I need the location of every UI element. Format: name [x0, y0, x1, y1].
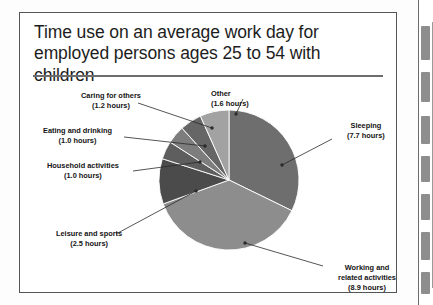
binding-mark: [421, 72, 430, 102]
binding-mark: [421, 116, 430, 144]
label-other-value: (1.6 hours): [211, 99, 249, 109]
label-sleeping: Sleeping (7.7 hours): [347, 121, 385, 141]
binding-mark: [421, 194, 430, 220]
binding-mark: [421, 156, 430, 182]
pie-chart: [20, 13, 396, 292]
label-working-and-related-activities: Working and related activities (8.9 hour…: [338, 263, 396, 292]
label-leisure-name: Leisure and sports: [56, 229, 122, 239]
label-eating-name: Eating and drinking: [43, 126, 112, 136]
label-other: Other (1.6 hours): [211, 89, 249, 109]
label-household-value: (1.0 hours): [47, 171, 119, 181]
label-working-value: (8.9 hours): [338, 283, 396, 293]
label-working-name: Working and: [338, 263, 396, 273]
label-sleeping-value: (7.7 hours): [347, 131, 385, 141]
figure-frame: Time use on an average work day for empl…: [19, 12, 397, 293]
binding-mark: [421, 232, 430, 260]
label-household-name: Household activities: [47, 161, 119, 171]
label-working-name-2: related activities: [338, 273, 396, 283]
arrow-sleeping: [280, 163, 283, 166]
arrow-caring: [210, 126, 213, 129]
label-caring-value: (1.2 hours): [81, 101, 141, 111]
leader-working: [245, 243, 323, 266]
label-eating-value: (1.0 hours): [43, 136, 112, 146]
binding-mark: [421, 272, 430, 294]
label-caring-for-others: Caring for others (1.2 hours): [81, 91, 141, 111]
label-leisure-value: (2.5 hours): [56, 239, 122, 249]
arrow-leisure: [194, 189, 197, 192]
label-sleeping-name: Sleeping: [347, 121, 385, 131]
binding-mark: [421, 26, 430, 60]
label-other-name: Other: [211, 89, 249, 99]
scan-page-edge: [418, 0, 420, 305]
pie-chart-svg: [20, 13, 398, 294]
label-household-activities: Household activities (1.0 hours): [47, 161, 119, 181]
label-caring-name: Caring for others: [81, 91, 141, 101]
label-eating-and-drinking: Eating and drinking (1.0 hours): [43, 126, 112, 146]
scanned-page: Time use on an average work day for empl…: [0, 0, 433, 305]
arrow-eating: [203, 144, 206, 147]
arrow-household: [198, 160, 201, 163]
arrow-other: [234, 112, 237, 115]
pie-slice-group: [159, 110, 299, 250]
label-leisure-and-sports: Leisure and sports (2.5 hours): [56, 229, 122, 249]
arrow-working: [243, 241, 246, 244]
